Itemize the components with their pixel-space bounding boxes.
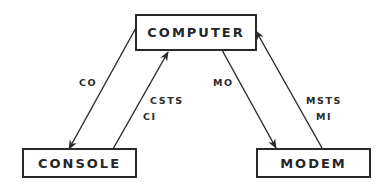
modem-label: MODEM <box>280 156 347 171</box>
computer-label: COMPUTER <box>147 25 244 40</box>
edge-label-msts: MSTS <box>306 96 342 106</box>
computer-node: COMPUTER <box>135 14 257 51</box>
edge-label-co: CO <box>79 78 97 88</box>
console-label: CONSOLE <box>38 156 121 171</box>
console-node: CONSOLE <box>22 148 137 178</box>
edge-label-ci: CI <box>143 112 157 122</box>
edge-label-mi: MI <box>316 112 332 122</box>
edge-label-csts: CSTS <box>150 96 184 106</box>
arrow-mo <box>222 50 276 148</box>
edge-label-mo: MO <box>213 78 234 88</box>
diagram-canvas: COMPUTER CONSOLE MODEM CO CSTS CI MO MST… <box>0 0 391 187</box>
modem-node: MODEM <box>256 148 371 178</box>
